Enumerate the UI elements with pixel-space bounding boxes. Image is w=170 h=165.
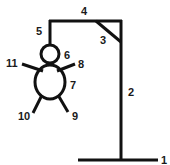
- label-right-leg: 9: [72, 110, 78, 122]
- label-body: 7: [70, 79, 76, 91]
- right-leg: [58, 95, 68, 112]
- left-leg: [33, 95, 42, 113]
- label-rope: 5: [36, 25, 42, 37]
- label-base: 1: [161, 154, 167, 165]
- hangman-diagram: 1 2 3 4 5 6 7 8 9 10 11: [0, 0, 170, 165]
- label-head: 6: [64, 49, 70, 61]
- label-right-arm: 8: [78, 58, 84, 70]
- head: [41, 45, 59, 63]
- label-left-leg: 10: [18, 110, 30, 122]
- label-post: 2: [128, 86, 134, 98]
- label-beam: 4: [81, 5, 88, 17]
- label-left-arm: 11: [6, 57, 18, 69]
- label-brace: 3: [100, 34, 106, 46]
